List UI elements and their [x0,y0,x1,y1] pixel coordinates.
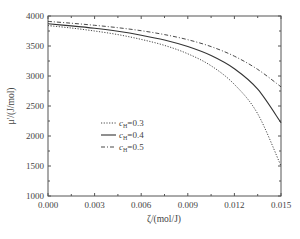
y-tick-label: 2500 [26,101,45,111]
x-tick-label: 0.003 [84,200,105,210]
plot-frame [48,16,281,196]
x-axis-title: ζ/(mol/J) [147,214,181,225]
legend-label: cH=0.5 [119,142,144,153]
series-line-dash-dot [48,21,281,86]
y-tick-label: 3500 [26,41,45,51]
x-tick-label: 0.006 [131,200,152,210]
y-axis: 1000150020002500300035004000 [26,11,281,201]
y-tick-label: 2000 [26,131,45,141]
series-group [48,21,281,166]
legend-label: cH=0.4 [119,130,144,141]
x-tick-label: 0.009 [178,200,199,210]
y-tick-label: 4000 [26,11,45,21]
y-tick-label: 1500 [26,161,45,171]
series-line-dotted [48,26,281,166]
y-tick-label: 3000 [26,71,45,81]
x-tick-label: 0.012 [224,200,244,210]
x-tick-label: 0.015 [271,200,292,210]
legend: cH=0.3cH=0.4cH=0.5 [101,118,144,153]
y-axis-title: μ'/(J/mol) [6,88,17,125]
x-axis: 0.0000.0030.0060.0090.0120.015 [38,16,292,210]
legend-label: cH=0.3 [119,118,144,129]
x-tick-label: 0.000 [38,200,59,210]
series-line-solid [48,24,281,123]
line-chart: 1000150020002500300035004000 0.0000.0030… [0,0,300,239]
